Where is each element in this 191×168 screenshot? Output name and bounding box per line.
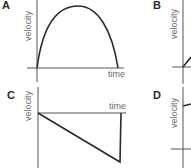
panel-d: D velocity: [153, 87, 191, 168]
panel-c-line: [38, 113, 121, 162]
panel-b: B velocity: [153, 0, 191, 84]
panel-c-xlabel: time: [109, 101, 126, 111]
panel-d-line: [183, 104, 191, 106]
panel-a-curve: [37, 6, 118, 68]
panel-a-xlabel: time: [108, 69, 125, 79]
panel-d-ylabel: velocity: [169, 97, 179, 128]
panel-b-ylabel: velocity: [169, 8, 179, 39]
panel-b-label: B: [153, 0, 161, 11]
panel-b-line: [183, 57, 191, 67]
panel-a-label: A: [2, 0, 10, 11]
velocity-time-graphs: A velocity time B velocity C velocity ti…: [0, 0, 191, 168]
panel-a-ylabel: velocity: [23, 10, 33, 41]
panel-c-ylabel: velocity: [23, 90, 33, 121]
panel-a: A velocity time: [2, 0, 125, 82]
panel-c-label: C: [7, 89, 15, 101]
panel-d-label: D: [153, 89, 161, 101]
panel-c: C velocity time: [7, 87, 126, 168]
